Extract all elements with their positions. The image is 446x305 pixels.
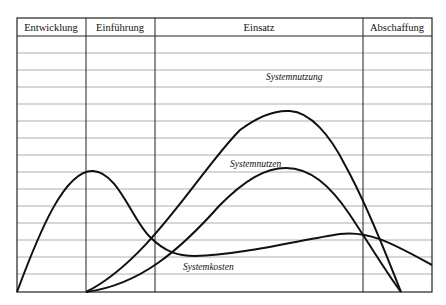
phase-header-einsatz: Einsatz — [244, 22, 275, 33]
phase-header-abschaffung: Abschaffung — [370, 22, 425, 33]
curve-systemnutzen — [86, 168, 401, 292]
lifecycle-diagram: Entwicklung Einführung Einsatz Abschaffu… — [0, 0, 446, 305]
label-systemnutzen: Systemnutzen — [230, 159, 281, 169]
label-systemnutzung: Systemnutzung — [266, 72, 323, 82]
phase-header-entwicklung: Entwicklung — [24, 22, 78, 33]
label-systemkosten: Systemkosten — [183, 262, 234, 272]
phase-header-einfuehrung: Einführung — [96, 22, 145, 33]
grid-lines — [17, 53, 432, 274]
